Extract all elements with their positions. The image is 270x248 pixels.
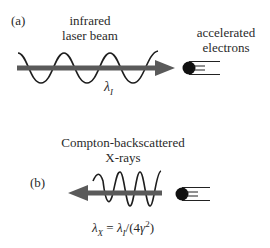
formula-equals: =	[103, 220, 117, 235]
xray-wave-icon	[93, 171, 161, 206]
beam-label-line1: infrared	[69, 14, 110, 28]
electron-label-line1: accelerated	[197, 26, 255, 40]
xray-label-line1: Compton-backscattered	[61, 136, 184, 150]
panel-b-label: (b)	[30, 176, 45, 190]
compton-diagram: (a) infrared laser beam accelerated elec…	[0, 0, 270, 248]
xray-wavelength-formula: λX = λI/(4γ2)	[92, 217, 154, 240]
lambda-subscript: I	[110, 87, 113, 97]
formula-close-paren: )	[150, 220, 154, 235]
panel-a-label: (a)	[11, 14, 25, 28]
formula-denominator-open: /(4	[126, 220, 140, 235]
beam-label-line2: laser beam	[62, 29, 118, 43]
xray-label-line2: X-rays	[105, 151, 140, 165]
wavelength-label: λI	[104, 80, 113, 99]
electron-icon	[183, 62, 221, 75]
electron-icon	[176, 188, 211, 201]
electron-label-line2: electrons	[203, 41, 250, 55]
